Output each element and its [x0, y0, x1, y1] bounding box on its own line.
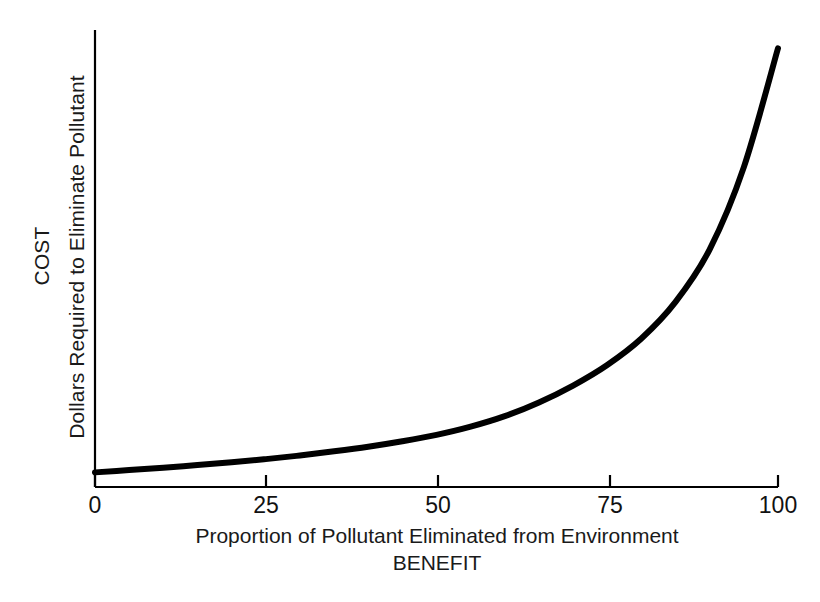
cost-curve-line: [95, 48, 778, 472]
x-axis-ticklabel-25: 25: [226, 492, 306, 519]
x-axis-ticklabel-0: 0: [55, 492, 135, 519]
x-axis-ticklabel-50: 50: [398, 492, 478, 519]
chart-figure: COST Dollars Required to Eliminate Pollu…: [0, 0, 820, 602]
x-axis-ticklabel-100: 100: [738, 492, 818, 519]
x-axis-ticklabel-75: 75: [570, 492, 650, 519]
x-axis-title-primary: Proportion of Pollutant Eliminated from …: [95, 524, 779, 548]
x-axis-title-secondary: BENEFIT: [95, 551, 779, 575]
x-axis-tickmarks: [95, 475, 778, 487]
